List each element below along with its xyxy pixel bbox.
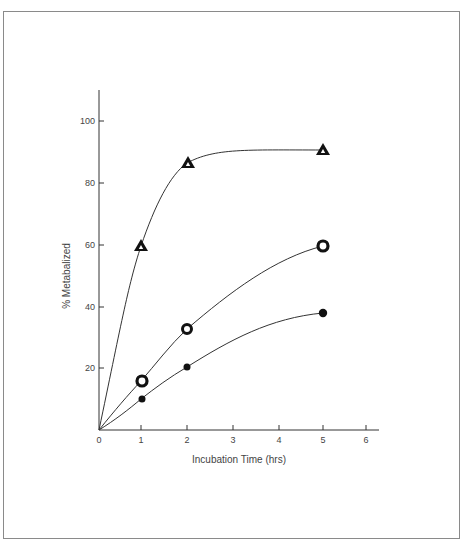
x-axis-title: Incubation Time (hrs): [192, 454, 286, 465]
triangle-marker-icon: [181, 156, 195, 168]
ring-markers: [137, 241, 328, 386]
x-tick-4: 4: [276, 435, 281, 445]
dot-marker-icon: [184, 364, 191, 371]
x-ticks: [141, 425, 366, 430]
y-tick-100: 100: [80, 116, 95, 126]
x-tick-2: 2: [184, 435, 189, 445]
y-tick-40: 40: [85, 302, 95, 312]
dot-marker-icon: [139, 396, 146, 403]
x-tick-1: 1: [138, 435, 143, 445]
triangle-marker-icon: [316, 143, 330, 155]
y-tick-20: 20: [85, 363, 95, 373]
triangle-markers: [134, 143, 330, 251]
y-ticks: [99, 121, 104, 368]
x-tick-6: 6: [363, 435, 368, 445]
ring-marker-icon: [183, 325, 192, 334]
filled-circle-series-curve: [99, 313, 323, 430]
ring-marker-icon: [137, 376, 147, 386]
y-axis-title: % Metabalized: [61, 243, 72, 309]
x-tick-0: 0: [96, 435, 101, 445]
dot-marker-icon: [319, 309, 327, 317]
y-tick-labels: 20 40 60 80 100: [80, 116, 95, 373]
x-tick-5: 5: [320, 435, 325, 445]
triangle-series-curve: [99, 150, 323, 430]
triangle-marker-icon: [134, 239, 148, 251]
ring-marker-icon: [318, 241, 328, 251]
y-tick-60: 60: [85, 240, 95, 250]
x-tick-3: 3: [230, 435, 235, 445]
x-tick-labels: 0 1 2 3 4 5 6: [96, 435, 368, 445]
chart-canvas: 20 40 60 80 100 0 1 2 3 4 5 6 Incubation…: [0, 0, 465, 545]
y-tick-80: 80: [85, 178, 95, 188]
dot-markers: [139, 309, 328, 403]
